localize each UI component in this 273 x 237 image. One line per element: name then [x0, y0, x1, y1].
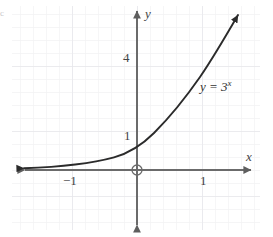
curve-equation-exponent: x [228, 78, 232, 88]
x-axis-label: x [246, 150, 252, 163]
curve-equation-label: y = 3x [200, 80, 232, 93]
graph-screenshot: c 4 [0, 0, 273, 237]
y-tick-label-1: 1 [124, 129, 131, 142]
x-tick-label-neg1: −1 [63, 174, 77, 187]
x-tick-label-1: 1 [200, 174, 207, 187]
coordinate-plane-svg [0, 0, 273, 237]
y-tick-label-4: 4 [123, 51, 130, 64]
y-axis-label: y [145, 7, 151, 20]
curve-equation-text: y = 3 [200, 79, 228, 94]
